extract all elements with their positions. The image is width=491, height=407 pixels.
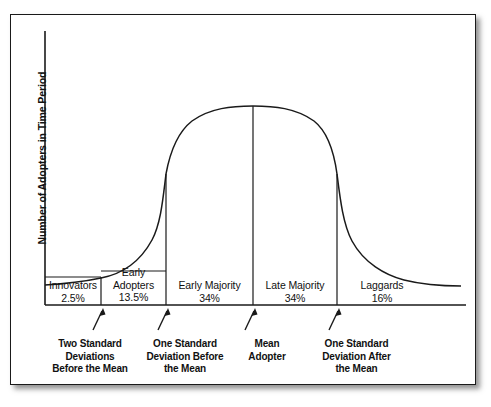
- band-percent-innovators: 2.5%: [45, 292, 101, 305]
- band-label-laggards: Laggards 16%: [337, 279, 427, 304]
- figure-root: Number of Adopters in Time Period: [0, 0, 491, 407]
- band-label-early-majority: Early Majority 34%: [166, 279, 253, 304]
- annotation-one-sd-after-line1: One Standard: [293, 338, 420, 351]
- band-name-laggards: Laggards: [337, 279, 427, 292]
- band-percent-late-majority: 34%: [253, 292, 337, 305]
- band-percent-early-majority: 34%: [166, 292, 253, 305]
- band-percent-early-adopters: 13.5%: [101, 291, 166, 304]
- band-name-late-majority: Late Majority: [253, 279, 337, 292]
- band-label-innovators: Innovators 2.5%: [45, 279, 101, 304]
- band-label-late-majority: Late Majority 34%: [253, 279, 337, 304]
- band-label-early-adopters: Early Adopters 13.5%: [101, 266, 166, 304]
- annotation-one-sd-after: One Standard Deviation After the Mean: [293, 338, 420, 376]
- annotation-one-sd-after-line2: Deviation After: [293, 351, 420, 364]
- band-name-early-adopters: Early Adopters: [101, 266, 166, 291]
- figure-border-frame: [10, 14, 476, 385]
- band-name-innovators: Innovators: [45, 279, 101, 292]
- annotation-one-sd-after-line3: the Mean: [293, 363, 420, 376]
- y-axis-title: Number of Adopters in Time Period: [36, 43, 48, 273]
- band-name-early-majority: Early Majority: [166, 279, 253, 292]
- band-percent-laggards: 16%: [337, 292, 427, 305]
- annotation-one-sd-before-line3: the Mean: [120, 363, 250, 376]
